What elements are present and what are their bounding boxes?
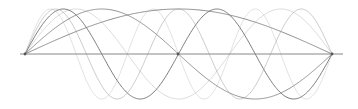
- wave-canvas: [0, 0, 358, 109]
- node-point: [24, 53, 27, 56]
- node-point: [177, 53, 180, 56]
- harmonic-mode-1-curve: [25, 9, 332, 54]
- node-point: [331, 53, 334, 56]
- standing-wave-diagram: [0, 0, 358, 109]
